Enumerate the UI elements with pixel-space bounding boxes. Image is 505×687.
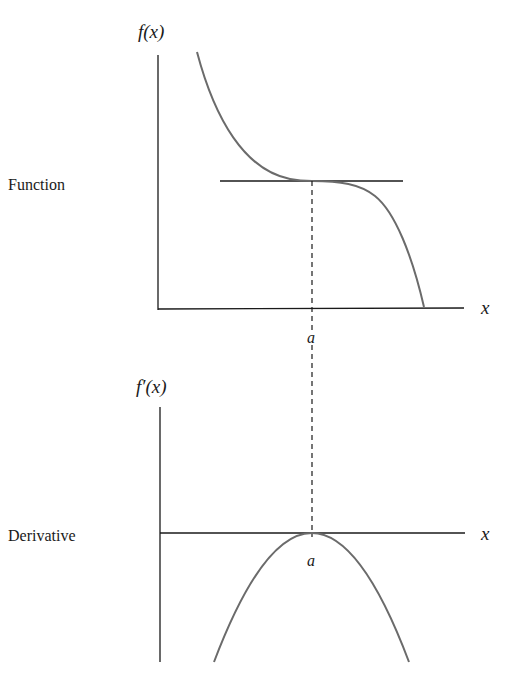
derivative-panel: f′(x) x a Derivative: [8, 376, 490, 662]
point-a-label-top: a: [307, 329, 315, 346]
derivative-y-axis-label: f′(x): [136, 376, 167, 398]
function-curve: [197, 52, 424, 307]
function-x-axis-label: x: [480, 297, 490, 318]
derivative-row-label: Derivative: [8, 527, 76, 544]
derivative-x-axis-label: x: [480, 523, 490, 544]
point-a-label-bottom: a: [307, 552, 315, 569]
function-x-axis: [158, 308, 464, 309]
function-row-label: Function: [8, 176, 65, 193]
function-panel: f(x) x Function: [8, 21, 490, 318]
diagram-canvas: f(x) x Function a f′(x) x a Derivative: [0, 0, 505, 687]
function-y-axis-label: f(x): [138, 21, 164, 43]
